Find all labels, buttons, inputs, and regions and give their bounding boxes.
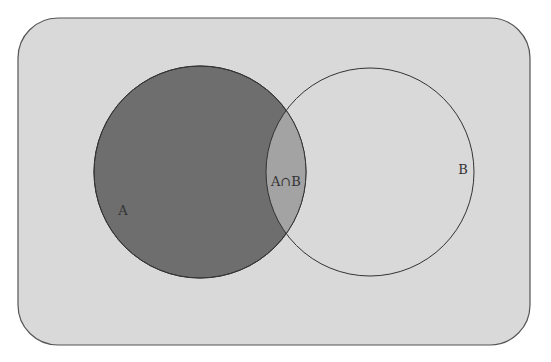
intersection-label: A∩B [270, 174, 301, 189]
set-b-label: B [458, 162, 468, 177]
venn-diagram: A B A∩B [0, 0, 551, 362]
set-a-label: A [117, 203, 128, 218]
